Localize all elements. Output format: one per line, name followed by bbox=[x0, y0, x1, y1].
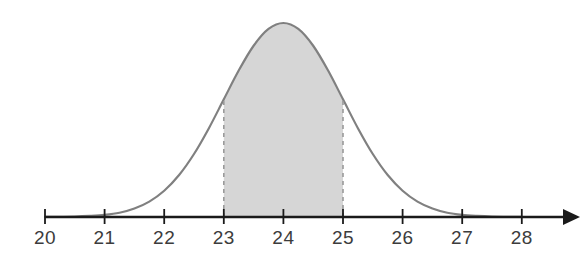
shaded-area-between-23-and-25 bbox=[224, 23, 343, 217]
distribution-plot bbox=[0, 0, 587, 257]
normal-distribution-figure: 20 21 22 23 24 25 26 27 28 bbox=[0, 0, 587, 257]
axis-arrowhead-icon bbox=[563, 209, 580, 225]
